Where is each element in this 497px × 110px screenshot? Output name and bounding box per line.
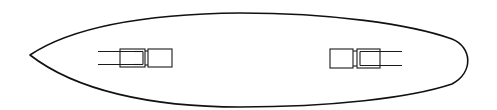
aft-mount-base (330, 49, 353, 68)
forward-mount-base (148, 49, 172, 67)
aft-mount (330, 49, 402, 68)
ship-plan-diagram (0, 0, 497, 110)
forward-mount (98, 49, 172, 67)
hull-outline (30, 13, 468, 107)
ship-plan-svg (0, 0, 497, 110)
